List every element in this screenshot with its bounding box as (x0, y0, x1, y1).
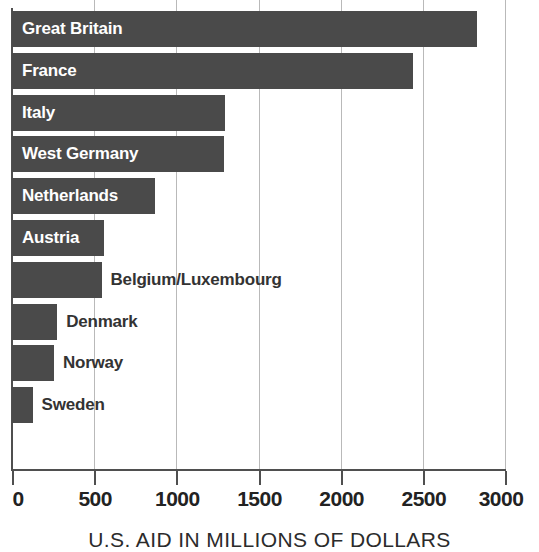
bar-row[interactable]: Netherlands (0, 178, 539, 214)
bar-row[interactable]: Belgium/Luxembourg (0, 262, 539, 298)
bar[interactable] (12, 304, 57, 340)
bar[interactable] (12, 262, 102, 298)
bar-row[interactable]: Norway (0, 345, 539, 381)
bar-label: Italy (22, 95, 55, 131)
plot-area: Great BritainFranceItalyWest GermanyNeth… (0, 0, 539, 472)
bar-row[interactable]: France (0, 53, 539, 89)
tick-mark-1000 (176, 471, 178, 485)
tick-label-500: 500 (78, 487, 112, 511)
tick-label-2500: 2500 (401, 487, 446, 511)
bar-label: West Germany (22, 136, 138, 172)
bar-row[interactable]: Sweden (0, 387, 539, 423)
tick-mark-2000 (341, 471, 343, 485)
tick-label-2000: 2000 (319, 487, 364, 511)
tick-label-1500: 1500 (237, 487, 282, 511)
bar-label: Belgium/Luxembourg (111, 262, 282, 298)
bar-row[interactable]: Austria (0, 220, 539, 256)
tick-label-3000: 3000 (479, 487, 524, 511)
tick-label-1000: 1000 (155, 487, 200, 511)
bar-label: Austria (22, 220, 79, 256)
bar[interactable] (12, 345, 54, 381)
bar[interactable] (12, 387, 33, 423)
bar-row[interactable]: Denmark (0, 304, 539, 340)
tick-mark-0 (12, 471, 14, 485)
tick-mark-2500 (423, 471, 425, 485)
tick-mark-1500 (259, 471, 261, 485)
x-axis-title: U.S. AID IN MILLIONS OF DOLLARS (0, 528, 539, 552)
tick-mark-500 (94, 471, 96, 485)
bar-label: France (22, 53, 77, 89)
horizontal-bar-chart: Great BritainFranceItalyWest GermanyNeth… (0, 0, 539, 552)
bar-label: Denmark (66, 304, 137, 340)
bar-row[interactable]: Great Britain (0, 11, 539, 47)
bar-label: Norway (63, 345, 123, 381)
bar-label: Sweden (42, 387, 105, 423)
bar-row[interactable]: West Germany (0, 136, 539, 172)
tick-label-0: 0 (12, 487, 23, 511)
bar-row[interactable]: Italy (0, 95, 539, 131)
bar-label: Great Britain (22, 11, 122, 47)
tick-mark-3000 (505, 471, 507, 485)
bar-label: Netherlands (22, 178, 118, 214)
